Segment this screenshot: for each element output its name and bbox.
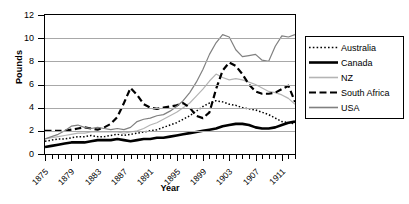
legend-label-usa: USA — [339, 103, 360, 113]
x-tick-mark-minor — [275, 155, 276, 159]
x-tick-mark-minor — [131, 155, 132, 159]
x-axis-title: Year — [44, 183, 296, 193]
x-tick-mark-major — [229, 155, 230, 161]
x-tick-mark-major — [71, 155, 72, 161]
x-tick-mark-major — [150, 155, 151, 161]
x-tick-mark-minor — [223, 155, 224, 159]
x-tick-mark-minor — [58, 155, 59, 159]
legend-item-usa: USA — [308, 100, 400, 115]
x-tick-mark-major — [203, 155, 204, 161]
series-line-usa — [45, 35, 295, 139]
gridline — [45, 38, 295, 39]
legend-label-canada: Canada — [339, 58, 373, 68]
chart-root: Pounds 024681012 18751879188318871891189… — [0, 0, 409, 204]
legend-label-australia: Australia — [339, 43, 376, 53]
series-line-south-africa — [45, 62, 295, 130]
x-tick-mark-minor — [216, 155, 217, 159]
gridline — [45, 131, 295, 132]
legend-label-south-africa: South Africa — [339, 88, 390, 98]
x-tick-mark-major — [177, 155, 178, 161]
x-tick-mark-minor — [137, 155, 138, 159]
x-tick-mark-minor — [209, 155, 210, 159]
x-tick-mark-major — [45, 155, 46, 161]
x-tick-mark-minor — [65, 155, 66, 159]
x-tick-mark-minor — [262, 155, 263, 159]
legend-swatch-nz — [308, 72, 339, 83]
x-tick-mark-minor — [170, 155, 171, 159]
x-tick-mark-minor — [157, 155, 158, 159]
legend-swatch-canada — [308, 57, 339, 68]
x-tick-mark-minor — [295, 155, 296, 159]
x-tick-mark-minor — [269, 155, 270, 159]
x-tick-mark-minor — [91, 155, 92, 159]
x-tick-mark-minor — [183, 155, 184, 159]
legend-item-south-africa: South Africa — [308, 85, 400, 100]
legend-swatch-australia — [308, 42, 339, 53]
x-tick-mark-major — [256, 155, 257, 161]
x-tick-mark-major — [282, 155, 283, 161]
y-tick-label: 0 — [4, 150, 34, 159]
x-tick-mark-minor — [196, 155, 197, 159]
legend-item-nz: NZ — [308, 70, 400, 85]
legend-swatch-south-africa — [308, 87, 339, 98]
x-tick-mark-minor — [84, 155, 85, 159]
chart-legend: Australia Canada NZ South Africa USA — [305, 36, 404, 119]
plot-area — [44, 14, 296, 155]
y-tick-label: 12 — [4, 11, 34, 20]
y-tick-label: 8 — [4, 57, 34, 66]
y-tick-label: 10 — [4, 34, 34, 43]
legend-swatch-usa — [308, 102, 339, 113]
x-tick-mark-minor — [104, 155, 105, 159]
x-tick-mark-minor — [144, 155, 145, 159]
x-tick-mark-minor — [242, 155, 243, 159]
x-tick-mark-minor — [190, 155, 191, 159]
gridline — [45, 108, 295, 109]
y-tick-label: 4 — [4, 103, 34, 112]
x-tick-mark-minor — [236, 155, 237, 159]
legend-item-canada: Canada — [308, 55, 400, 70]
x-tick-mark-minor — [111, 155, 112, 159]
x-tick-mark-minor — [249, 155, 250, 159]
gridline — [45, 61, 295, 62]
legend-item-australia: Australia — [308, 40, 400, 55]
y-tick-label: 2 — [4, 126, 34, 135]
x-tick-mark-minor — [163, 155, 164, 159]
x-tick-mark-major — [124, 155, 125, 161]
x-tick-mark-minor — [288, 155, 289, 159]
x-tick-mark-minor — [117, 155, 118, 159]
y-tick-label: 6 — [4, 80, 34, 89]
gridline — [45, 85, 295, 86]
x-tick-mark-minor — [78, 155, 79, 159]
legend-label-nz: NZ — [339, 73, 353, 83]
x-tick-mark-minor — [52, 155, 53, 159]
x-tick-mark-major — [98, 155, 99, 161]
